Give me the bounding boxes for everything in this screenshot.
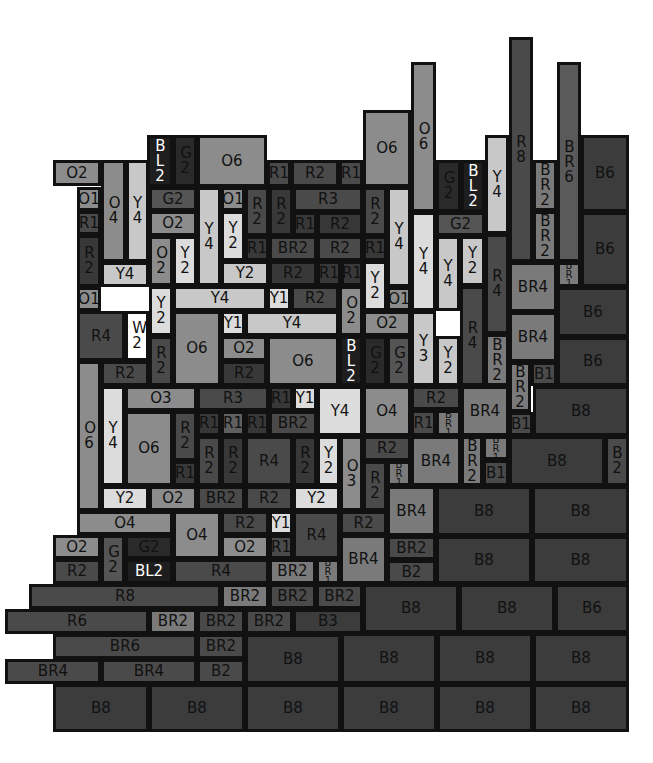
block-y4: Y4 [101, 262, 149, 287]
block-label: R1 [365, 241, 385, 256]
block-label: B8 [401, 601, 421, 616]
block-r4: R4 [485, 234, 509, 334]
block-label: B6 [582, 601, 602, 616]
block-label: B8 [283, 652, 303, 667]
block-o2: O2 [149, 486, 197, 511]
block-r4: R4 [245, 436, 293, 486]
block-label: Y2 [156, 296, 166, 326]
block-b6: B6 [555, 584, 629, 633]
block-label: R2 [330, 217, 350, 232]
block-r1: R1 [411, 410, 436, 436]
block-label: O3 [150, 391, 171, 406]
block-br2: BR2 [387, 536, 436, 560]
block-label: R2 [67, 564, 87, 579]
block-r2: R2 [291, 160, 339, 187]
block-y2: Y2 [293, 486, 340, 511]
block-b8: B8 [363, 584, 459, 633]
block-br4: BR4 [509, 262, 557, 312]
block-o6: O6 [363, 110, 411, 187]
block-r2: R2 [411, 386, 461, 410]
block-o6: O6 [411, 62, 436, 212]
block-label: B1 [486, 466, 506, 481]
block-label: B2 [211, 664, 231, 679]
block-label: G2 [108, 545, 118, 575]
block-r2: R2 [149, 336, 173, 386]
block-r1: R1 [269, 386, 293, 411]
block-label: O1 [78, 192, 99, 207]
block-label: B8 [475, 701, 495, 716]
block-o2: O2 [363, 311, 411, 336]
block-br6: BR6 [53, 634, 197, 659]
block-y1: Y1 [267, 286, 291, 311]
block-label: BR2 [158, 614, 188, 629]
block-br1: BR1 [436, 410, 461, 436]
block-label: B6 [595, 166, 615, 181]
block-r3: R3 [197, 386, 269, 411]
block-label: BR6 [564, 140, 574, 185]
block-r2: R2 [291, 286, 339, 311]
block-label: B6 [583, 354, 603, 369]
block-label: B8 [474, 504, 494, 519]
block-o4: O4 [101, 160, 126, 262]
block-label: BR4 [518, 280, 548, 295]
block-label: B8 [547, 454, 567, 469]
block-label: Y2 [307, 491, 326, 506]
block-o6: O6 [267, 336, 339, 386]
block-o1: O1 [77, 287, 101, 311]
block-label: R2 [276, 197, 286, 227]
block-r6: R6 [5, 609, 149, 634]
block-r2: R2 [221, 511, 269, 535]
block-label: Y2 [443, 346, 453, 376]
block-br2: BR2 [197, 486, 245, 511]
block-label: R2 [354, 516, 374, 531]
block-label: BL2 [468, 164, 478, 209]
block-label: R8 [115, 589, 135, 604]
block-label: O2 [156, 246, 166, 276]
block-label: R8 [516, 135, 526, 165]
block-y2: Y2 [101, 486, 149, 511]
block-r1: R1 [221, 411, 245, 436]
block-label: Y4 [419, 247, 429, 277]
block-r1: R1 [339, 160, 363, 187]
block-label: O6 [292, 354, 313, 369]
block-label: B8 [475, 651, 495, 666]
block-br2: BR2 [149, 609, 197, 634]
block-g2: G2 [101, 535, 125, 584]
block-br1: BR1 [316, 559, 340, 584]
block-o4: O4 [77, 511, 173, 535]
block-label: R1 [295, 217, 315, 232]
block-r2: R2 [221, 361, 267, 386]
block-b6: B6 [557, 337, 629, 386]
block-b6: B6 [581, 212, 629, 287]
block-label: O4 [376, 404, 397, 419]
block-label: R1 [319, 266, 339, 281]
block-label: R2 [156, 346, 166, 376]
block-br2: BR2 [509, 362, 531, 412]
block-b2: B2 [387, 560, 436, 584]
block-b6: B6 [557, 287, 629, 337]
block-r4: R4 [173, 559, 269, 584]
block-label: W2 [132, 321, 142, 351]
block-label: O1 [78, 292, 99, 307]
block-br2: BR2 [197, 634, 245, 659]
block-label: B8 [283, 701, 303, 716]
block-y2: Y2 [317, 436, 340, 486]
block-br2: BR2 [485, 334, 509, 386]
block-label: BL2 [346, 339, 356, 384]
block-o2: O2 [149, 236, 173, 286]
block-label: BL2 [135, 564, 163, 579]
block-y2: Y2 [363, 261, 387, 311]
block-br2: BR2 [533, 211, 557, 262]
block-o6: O6 [77, 361, 101, 511]
block-label: B8 [497, 601, 517, 616]
block-label: BR4 [38, 664, 68, 679]
block-label: G2 [444, 171, 454, 201]
block-o6: O6 [197, 135, 267, 187]
block-y2: Y2 [221, 211, 245, 261]
block-label: R2 [283, 266, 303, 281]
block-b8: B8 [437, 633, 533, 684]
block-b8: B8 [341, 684, 437, 732]
block-o2: O2 [149, 211, 197, 236]
block-br2: BR2 [533, 160, 557, 211]
block-o6: O6 [173, 311, 221, 386]
